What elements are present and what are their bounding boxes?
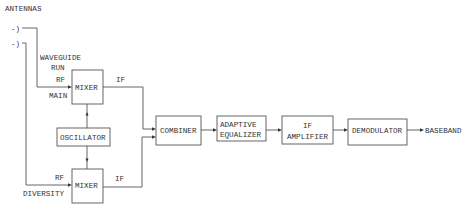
diversity-receiver-diagram: ANTENNAS -) -) WAVEGUIDE RUN RF MAIN MIX… (0, 0, 472, 212)
waveguide-run-label: RUN (51, 64, 65, 72)
demodulator-label: DEMODULATOR (352, 127, 403, 135)
arrow-into-demodulator (344, 128, 348, 131)
arrow-into-combiner-diversity (152, 135, 156, 138)
arrow-lo-main (86, 112, 89, 116)
mixer-main-label: MIXER (75, 84, 98, 92)
arrow-into-combiner-main (152, 127, 156, 130)
main-label: MAIN (49, 92, 67, 100)
arrow-into-mixer-main (68, 85, 72, 88)
rf-main-label: RF (56, 76, 66, 84)
arrow-baseband (420, 128, 424, 131)
if-main-label: IF (116, 76, 126, 84)
antennas-label: ANTENNAS (5, 5, 42, 13)
amplifier-label-line2: AMPLIFIER (287, 133, 328, 141)
arrow-into-mixer-diversity (68, 183, 72, 186)
arrow-into-equalizer (213, 128, 217, 131)
combiner-label: COMBINER (160, 127, 197, 135)
if-diversity-wire (103, 137, 154, 187)
oscillator-label: OSCILLATOR (60, 134, 106, 142)
equalizer-label-line1: ADAPTIVE (220, 121, 257, 129)
if-main-wire (103, 87, 154, 129)
arrow-lo-diversity (86, 159, 89, 163)
amplifier-label-line1: IF (303, 122, 313, 130)
diversity-label: DIVERSITY (23, 190, 64, 198)
if-diversity-label: IF (115, 175, 125, 183)
waveguide-label: WAVEGUIDE (40, 54, 81, 62)
baseband-label: BASEBAND (425, 127, 462, 135)
antenna-main-icon: -) (11, 25, 20, 33)
rf-diversity-label: RF (55, 174, 65, 182)
equalizer-label-line2: EQUALIZER (220, 131, 261, 139)
mixer-diversity-label: MIXER (75, 182, 98, 190)
antenna-diversity-icon: -) (11, 40, 20, 48)
arrow-into-amplifier (278, 128, 282, 131)
